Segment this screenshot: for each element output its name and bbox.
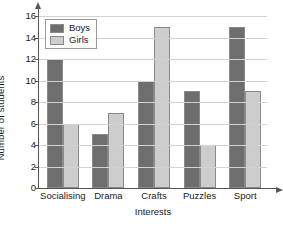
x-axis-arrow-icon <box>276 187 283 193</box>
bar-girls-sport <box>245 91 261 188</box>
gridline <box>39 145 267 146</box>
x-axis-tick-label: Sport <box>234 190 257 202</box>
legend-label: Girls <box>69 35 89 45</box>
legend-swatch-icon <box>50 24 64 33</box>
x-axis-tick-labels: SocialisingDramaCraftsPuzzlesSport <box>39 190 267 204</box>
x-axis-tick-label: Crafts <box>141 190 166 202</box>
x-axis-tick-label: Puzzles <box>183 190 216 202</box>
legend-item-boys: Boys <box>50 23 90 33</box>
y-axis-tick-mark <box>35 102 39 103</box>
legend-item-girls: Girls <box>50 35 90 45</box>
gridline <box>39 81 267 82</box>
legend-swatch-icon <box>50 36 64 45</box>
x-axis-tick-label: Socialising <box>40 190 85 202</box>
y-axis-tick-mark <box>35 124 39 125</box>
bar-girls-socialising <box>63 124 79 189</box>
y-axis-tick-mark <box>35 188 39 189</box>
x-axis-title: Interests <box>39 206 267 217</box>
x-axis-tick-label: Drama <box>94 190 123 202</box>
gridline <box>39 59 267 60</box>
bar-boys-puzzles <box>184 91 200 188</box>
gridline <box>39 124 267 125</box>
bar-boys-sport <box>229 27 245 188</box>
gridline <box>39 102 267 103</box>
bar-boys-drama <box>92 134 108 188</box>
y-axis-tick-mark <box>35 81 39 82</box>
x-axis-line <box>38 188 276 189</box>
bar-chart: Number of students 0246810121416 Sociali… <box>0 0 283 236</box>
y-axis-tick-mark <box>35 167 39 168</box>
bar-girls-crafts <box>154 27 170 188</box>
y-axis-tick-labels: 0246810121416 <box>18 16 36 188</box>
gridline <box>39 16 267 17</box>
y-axis-tick-mark <box>35 145 39 146</box>
y-axis-tick-mark <box>35 38 39 39</box>
y-axis-tick-mark <box>35 16 39 17</box>
gridline <box>39 167 267 168</box>
legend-label: Boys <box>69 23 90 33</box>
y-axis-arrow-icon <box>35 2 41 9</box>
chart-legend: BoysGirls <box>45 19 97 49</box>
y-axis-tick-mark <box>35 59 39 60</box>
bar-boys-crafts <box>138 81 154 189</box>
